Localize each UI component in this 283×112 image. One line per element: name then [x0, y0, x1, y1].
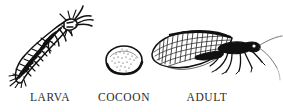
- lacewing-adult-illustration: [146, 2, 283, 88]
- life-cycle-figure: LARVA COCOON ADULT: [0, 0, 283, 112]
- stage-larva: [4, 2, 96, 88]
- stage-adult: [146, 2, 283, 88]
- lacewing-larva-illustration: [4, 2, 96, 88]
- stage-cocoon: [96, 2, 152, 88]
- caption-cocoon: COCOON: [88, 92, 160, 104]
- lacewing-cocoon-illustration: [96, 2, 152, 88]
- caption-larva: LARVA: [4, 92, 96, 104]
- caption-adult: ADULT: [166, 92, 248, 104]
